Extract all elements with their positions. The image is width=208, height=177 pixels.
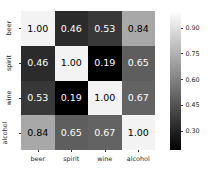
heatmap-cell: 0.67 <box>122 81 156 116</box>
heatmap-cell: 1.00 <box>122 115 156 150</box>
colorbar-tick-mark <box>181 53 183 54</box>
heatmap-cell-value: 0.67 <box>128 93 149 103</box>
x-axis-tick-mark <box>38 150 39 152</box>
heatmap-cell-value: 0.53 <box>27 93 48 103</box>
heatmap-cell-value: 0.19 <box>94 58 115 68</box>
heatmap-cell: 0.19 <box>55 81 89 116</box>
y-axis-tick-label: alcohol <box>2 121 10 144</box>
colorbar-tick-label: 0.90 <box>185 24 199 32</box>
heatmap-cell: 0.46 <box>55 11 89 46</box>
heatmap-cell: 0.19 <box>88 46 122 81</box>
heatmap-cell: 0.65 <box>122 46 156 81</box>
heatmap-cell: 0.67 <box>88 115 122 150</box>
colorbar-tick-label: 0.45 <box>185 101 199 109</box>
heatmap-cell: 1.00 <box>88 81 122 116</box>
heatmap-cell-value: 1.00 <box>61 58 82 68</box>
heatmap-cell: 0.84 <box>122 11 156 46</box>
heatmap-cell-value: 1.00 <box>27 24 48 34</box>
y-axis-tick-mark <box>19 133 21 134</box>
y-axis-tick-label: spirit <box>5 55 13 71</box>
heatmap-cell-value: 1.00 <box>128 128 149 138</box>
y-axis-tick-label: beer <box>6 21 14 36</box>
heatmap-cell-value: 0.19 <box>61 93 82 103</box>
heatmap-cell-value: 0.53 <box>94 24 115 34</box>
x-axis-tick-mark <box>71 150 72 152</box>
heatmap-cell: 0.53 <box>21 81 55 116</box>
colorbar-tick-label: 0.30 <box>185 127 199 135</box>
heatmap-cell-value: 0.84 <box>27 128 48 138</box>
x-axis-tick-label: spirit <box>63 155 79 163</box>
colorbar-tick-mark <box>181 28 183 29</box>
colorbar-gradient <box>170 11 181 150</box>
heatmap-cell-grid: 1.000.460.530.840.461.000.190.650.530.19… <box>21 11 155 150</box>
heatmap-cell: 0.46 <box>21 46 55 81</box>
heatmap-cell-value: 1.00 <box>94 93 115 103</box>
heatmap-figure: 1.000.460.530.840.461.000.190.650.530.19… <box>0 0 208 177</box>
heatmap-cell-value: 0.46 <box>61 24 82 34</box>
heatmap-cell: 1.00 <box>55 46 89 81</box>
y-axis-tick-label: wine <box>6 90 14 105</box>
heatmap-cell: 0.84 <box>21 115 55 150</box>
heatmap-cell-value: 0.67 <box>94 128 115 138</box>
heatmap-cell-value: 0.65 <box>61 128 82 138</box>
x-axis-tick-label: beer <box>30 155 45 163</box>
colorbar: 0.900.750.600.450.30 <box>170 11 181 150</box>
heatmap-cell-value: 0.65 <box>128 58 149 68</box>
y-axis-tick-mark <box>19 28 21 29</box>
colorbar-tick-mark <box>181 131 183 132</box>
x-axis-tick-mark <box>105 150 106 152</box>
y-axis-tick-mark <box>19 98 21 99</box>
x-axis-tick-mark <box>138 150 139 152</box>
heatmap-cell: 0.65 <box>55 115 89 150</box>
colorbar-tick-label: 0.60 <box>185 76 199 84</box>
colorbar-tick-mark <box>181 79 183 80</box>
x-axis-tick-label: alcohol <box>127 155 150 163</box>
colorbar-tick-label: 0.75 <box>185 50 199 58</box>
x-axis-tick-label: wine <box>97 155 112 163</box>
heatmap-cell-value: 0.46 <box>27 58 48 68</box>
heatmap-axes: 1.000.460.530.840.461.000.190.650.530.19… <box>21 11 155 150</box>
heatmap-cell-value: 0.84 <box>128 24 149 34</box>
heatmap-cell: 0.53 <box>88 11 122 46</box>
colorbar-tick-mark <box>181 105 183 106</box>
heatmap-cell: 1.00 <box>21 11 55 46</box>
y-axis-tick-mark <box>19 63 21 64</box>
